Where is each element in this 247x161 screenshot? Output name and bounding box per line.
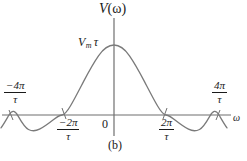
sinc-spectrum-plot — [0, 0, 247, 161]
plot-title-fn: V — [99, 1, 108, 16]
x-axis-label: ω — [233, 113, 240, 123]
tick-label-neg-2pi-denominator: τ — [57, 131, 79, 143]
peak-amplitude-label: Vmτ — [78, 36, 98, 50]
tick-label-pos-4pi-numerator: 4π — [212, 80, 227, 92]
tick-label-pos-2pi-over-tau: 2π τ — [159, 117, 174, 142]
plot-title: V(ω) — [99, 2, 126, 16]
tick-label-pos-4pi-denominator: τ — [212, 94, 227, 106]
origin-label: 0 — [102, 118, 108, 130]
tick-label-neg-4pi-numerator: −4π — [4, 80, 26, 92]
figure-container: V(ω) Vmτ 0 ω −4π τ −2π τ 2π τ 4π τ (b) — [0, 0, 247, 161]
peak-label-tau: τ — [94, 35, 98, 49]
tick-label-neg-4pi-denominator: τ — [4, 94, 26, 106]
figure-caption: (b) — [108, 139, 122, 151]
tick-label-neg-4pi-over-tau: −4π τ — [4, 80, 26, 105]
tick-label-pos-4pi-over-tau: 4π τ — [212, 80, 227, 105]
peak-label-v: V — [78, 35, 85, 49]
peak-label-subscript: m — [86, 41, 92, 50]
tick-label-neg-2pi-numerator: −2π — [57, 117, 79, 129]
tick-label-pos-2pi-denominator: τ — [159, 131, 174, 143]
tick-label-pos-2pi-numerator: 2π — [159, 117, 174, 129]
tick-label-neg-2pi-over-tau: −2π τ — [57, 117, 79, 142]
plot-title-arg: (ω) — [108, 1, 127, 16]
